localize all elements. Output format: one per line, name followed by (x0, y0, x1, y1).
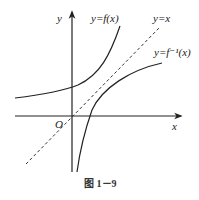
identity-label: y=x (152, 12, 170, 24)
y-axis-label: y (56, 12, 62, 24)
identity-line (26, 27, 160, 164)
inverse-function-label: y=f⁻¹(x) (153, 46, 191, 59)
x-axis-label: x (171, 120, 177, 132)
function-label: y=f(x) (90, 12, 119, 25)
function-curve (15, 26, 120, 98)
function-inverse-diagram: y x O y=f(x) y=x y=f⁻¹(x) 图 1－9 (0, 0, 199, 200)
origin-label: O (55, 118, 63, 130)
figure-caption: 图 1－9 (84, 178, 117, 189)
inverse-function-curve (77, 63, 162, 172)
